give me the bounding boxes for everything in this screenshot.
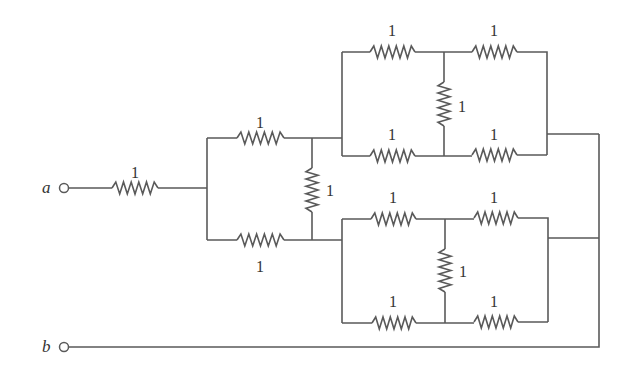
terminal-a-icon	[60, 184, 69, 193]
wire-upper-block	[342, 52, 599, 156]
labels: 11111111111111	[131, 22, 498, 310]
resistor-icon	[370, 150, 415, 162]
resistor-value-label: 1	[256, 258, 264, 275]
resistor-icon	[237, 234, 284, 246]
terminal-b-icon	[60, 343, 69, 352]
resistor-icon	[474, 212, 518, 224]
resistor-value-label: 1	[388, 22, 396, 39]
circuit-diagram: 11111111111111 ab	[0, 0, 625, 368]
resistor-value-label: 1	[131, 164, 139, 181]
resistor-icon	[439, 249, 451, 292]
resistor-value-label: 1	[388, 126, 396, 143]
resistor-icon	[370, 46, 415, 58]
resistor-value-label: 1	[490, 189, 498, 206]
wire-lower-block	[342, 218, 599, 323]
resistor-value-label: 1	[256, 114, 264, 131]
resistor-value-label: 1	[490, 293, 498, 310]
wire-left-block	[207, 138, 342, 240]
terminal-a-label: a	[42, 178, 51, 197]
terminals: ab	[42, 178, 69, 356]
resistor-icon	[472, 46, 517, 58]
resistor-icon	[438, 82, 450, 126]
resistor-icon	[237, 132, 284, 144]
resistor-value-label: 1	[490, 126, 498, 143]
resistor-value-label: 1	[490, 22, 498, 39]
resistor-value-label: 1	[459, 263, 467, 280]
resistor-value-label: 1	[389, 189, 397, 206]
resistor-icon	[372, 317, 416, 329]
resistor-icon	[474, 316, 518, 328]
resistor-icon	[112, 182, 158, 194]
terminal-b-label: b	[42, 337, 51, 356]
resistor-icon	[371, 213, 416, 225]
resistor-icon	[472, 149, 517, 161]
resistor-value-label: 1	[458, 98, 466, 115]
resistor-value-label: 1	[326, 182, 334, 199]
wires	[68, 52, 599, 347]
resistor-value-label: 1	[389, 293, 397, 310]
resistor-icon	[306, 168, 318, 212]
resistor-network: 11111111111111 ab	[0, 0, 625, 368]
